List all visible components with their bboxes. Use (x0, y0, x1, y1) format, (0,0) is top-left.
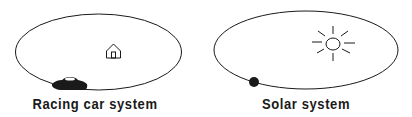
sun-icon (312, 26, 355, 61)
solar-system-diagram (214, 11, 398, 89)
race-track-orbit (16, 14, 182, 90)
solar-system-label: Solar system (262, 95, 350, 112)
racing-car-system-diagram (16, 14, 182, 90)
planet-orbit (214, 11, 398, 89)
racing-car-icon (52, 77, 87, 90)
racing-car-system-label: Racing car system (32, 95, 157, 112)
house-icon (107, 44, 121, 58)
planet-icon (249, 77, 259, 87)
